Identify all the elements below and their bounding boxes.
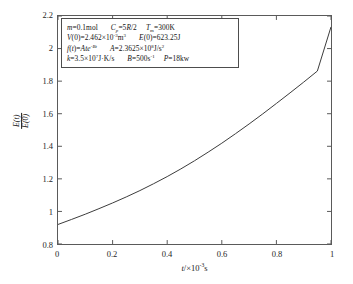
annotation-line-2: V(0)=2.462×10-3m3E(0)=623.25J xyxy=(67,33,234,44)
x-tick-label: 1 xyxy=(330,250,334,259)
y-tick-label: 2 xyxy=(49,44,53,53)
x-axis-title-rest: /×10 xyxy=(184,263,200,273)
y-axis-title: E(t) E(0) xyxy=(13,91,31,151)
parameter-annotation-box: m=0.1molCp=5R/2Tm=300K V(0)=2.462×10-3m3… xyxy=(61,18,239,68)
y-tick-label: 1.6 xyxy=(42,109,53,118)
y-tick-label: 1 xyxy=(49,208,53,217)
x-tick-label: 0.6 xyxy=(217,250,228,259)
y-tick-label: 2.2 xyxy=(42,11,53,20)
x-tick-label: 0.8 xyxy=(272,250,283,259)
y-tick-label: 1.4 xyxy=(42,142,53,151)
chart-figure: 0.811.21.41.61.822.2 E(t) E(0) m=0.1molC… xyxy=(0,0,353,284)
annotation-line-1: m=0.1molCp=5R/2Tm=300K xyxy=(67,22,234,33)
x-axis-title: t/×10-3s xyxy=(57,264,332,273)
y-axis-title-denominator: E(0) xyxy=(23,113,31,129)
y-tick-label: 1.8 xyxy=(42,76,53,85)
x-axis-tick-labels: 00.20.40.60.81 xyxy=(57,250,332,262)
x-axis-title-unit: s xyxy=(204,263,207,273)
x-tick-label: 0.4 xyxy=(162,250,173,259)
y-tick-label: 1.2 xyxy=(42,175,53,184)
x-tick-label: 0 xyxy=(55,250,59,259)
annotation-line-4: k=3.5×107J·K/sB=500s-1P=18kw xyxy=(67,54,234,65)
annotation-line-3: f(t)=Ate-BtA=2.3625×108J/s2 xyxy=(67,43,234,54)
x-tick-label: 0.2 xyxy=(107,250,118,259)
y-tick-label: 0.8 xyxy=(42,241,53,250)
plot-area: m=0.1molCp=5R/2Tm=300K V(0)=2.462×10-3m3… xyxy=(57,15,332,245)
